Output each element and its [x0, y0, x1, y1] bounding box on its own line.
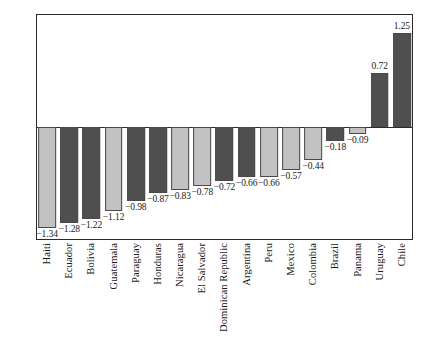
bar-brazil[interactable] [326, 127, 344, 141]
bar-slot: 1.25 [391, 14, 413, 240]
bar-slot: −1.34 [36, 14, 58, 240]
x-axis-label-slot: Guatemala [103, 241, 125, 347]
x-axis-label-slot: Mexico [280, 241, 302, 347]
bar-value-label: −0.57 [280, 171, 301, 181]
bar-nicaragua[interactable] [171, 127, 189, 190]
x-axis-category-labels: HaitiEcuadorBoliviaGuatemalaParaguayHond… [36, 241, 413, 347]
x-axis-label-nicaragua: Nicaragua [175, 243, 186, 287]
bar-value-label: −1.12 [103, 212, 124, 222]
x-axis-label-slot: Paraguay [125, 241, 147, 347]
bar-value-label: −0.98 [125, 202, 146, 212]
x-axis-label-colombia: Colombia [308, 243, 319, 285]
bar-argentina[interactable] [238, 127, 256, 177]
x-axis-label-slot: Dominican Republic [213, 241, 235, 347]
x-axis-label-slot: Ecuador [58, 241, 80, 347]
x-axis-label-brazil: Brazil [330, 243, 341, 269]
bar-chart: −1.5−1.0−0.50.00.51.01.5 −1.34−1.28−1.22… [0, 0, 429, 347]
bar-value-label: −0.66 [258, 178, 279, 188]
bar-mexico[interactable] [282, 127, 300, 170]
bar-slot: −1.28 [58, 14, 80, 240]
bar-slot: −1.12 [103, 14, 125, 240]
bars-layer: −1.34−1.28−1.22−1.12−0.98−0.87−0.83−0.78… [36, 14, 413, 240]
bar-value-label: 1.25 [394, 21, 410, 31]
bar-uruguay[interactable] [371, 73, 389, 127]
bar-guatemala[interactable] [105, 127, 123, 211]
x-axis-label-guatemala: Guatemala [108, 243, 119, 289]
x-axis-label-bolivia: Bolivia [86, 243, 97, 275]
bar-dominican-republic[interactable] [216, 127, 234, 181]
bar-slot: −0.57 [280, 14, 302, 240]
x-axis-label-slot: Panama [346, 241, 368, 347]
x-axis-label-slot: Argentina [236, 241, 258, 347]
y-axis: −1.5−1.0−0.50.00.51.01.5 [0, 0, 36, 347]
bar-value-label: −0.83 [169, 191, 190, 201]
bar-slot: −0.98 [125, 14, 147, 240]
bar-panama[interactable] [349, 127, 367, 134]
x-axis-label-el-salvador: El Salvador [197, 243, 208, 293]
x-axis-label-uruguay: Uruguay [374, 243, 385, 280]
bar-value-label: −0.18 [325, 142, 346, 152]
bar-slot: −0.87 [147, 14, 169, 240]
x-axis-label-ecuador: Ecuador [64, 243, 75, 279]
bar-bolivia[interactable] [83, 127, 101, 219]
x-axis-label-slot: Peru [258, 241, 280, 347]
bar-slot: −0.44 [302, 14, 324, 240]
x-axis-label-slot: Uruguay [369, 241, 391, 347]
bar-el-salvador[interactable] [193, 127, 211, 186]
bar-value-label: −1.34 [36, 229, 57, 239]
bar-slot: −1.22 [80, 14, 102, 240]
bar-slot: 0.72 [369, 14, 391, 240]
x-axis-label-panama: Panama [352, 243, 363, 277]
x-axis-label-slot: Brazil [324, 241, 346, 347]
bar-paraguay[interactable] [127, 127, 145, 201]
bar-haiti[interactable] [38, 127, 56, 228]
bar-value-label: −0.72 [214, 182, 235, 192]
x-axis-label-slot: El Salvador [191, 241, 213, 347]
x-axis-label-slot: Honduras [147, 241, 169, 347]
bar-chile[interactable] [393, 33, 411, 127]
x-axis-label-slot: Haiti [36, 241, 58, 347]
bar-value-label: −0.44 [302, 161, 323, 171]
x-axis-label-chile: Chile [397, 243, 408, 266]
bar-value-label: −0.87 [147, 194, 168, 204]
x-axis-label-slot: Nicaragua [169, 241, 191, 347]
bar-value-label: 0.72 [372, 61, 388, 71]
x-axis-label-argentina: Argentina [241, 243, 252, 286]
bar-value-label: −0.78 [192, 187, 213, 197]
bar-value-label: −0.66 [236, 178, 257, 188]
bar-slot: −0.09 [346, 14, 368, 240]
x-axis-label-peru: Peru [264, 243, 275, 263]
bar-value-label: −1.22 [81, 220, 102, 230]
bar-slot: −0.78 [191, 14, 213, 240]
bar-peru[interactable] [260, 127, 278, 177]
bar-ecuador[interactable] [60, 127, 78, 223]
x-axis-label-haiti: Haiti [42, 243, 53, 265]
x-axis-label-slot: Colombia [302, 241, 324, 347]
bar-slot: −0.83 [169, 14, 191, 240]
bar-value-label: −0.09 [347, 135, 368, 145]
x-axis-label-paraguay: Paraguay [131, 243, 142, 283]
x-axis-label-dominican-republic: Dominican Republic [219, 243, 230, 332]
bar-slot: −0.72 [213, 14, 235, 240]
bar-colombia[interactable] [304, 127, 322, 160]
x-axis-label-mexico: Mexico [286, 243, 297, 276]
bar-value-label: −1.28 [59, 224, 80, 234]
bar-honduras[interactable] [149, 127, 167, 193]
x-axis-label-slot: Chile [391, 241, 413, 347]
bar-slot: −0.66 [258, 14, 280, 240]
x-axis-label-slot: Bolivia [80, 241, 102, 347]
x-axis-label-honduras: Honduras [153, 243, 164, 285]
bar-slot: −0.18 [324, 14, 346, 240]
bar-slot: −0.66 [236, 14, 258, 240]
